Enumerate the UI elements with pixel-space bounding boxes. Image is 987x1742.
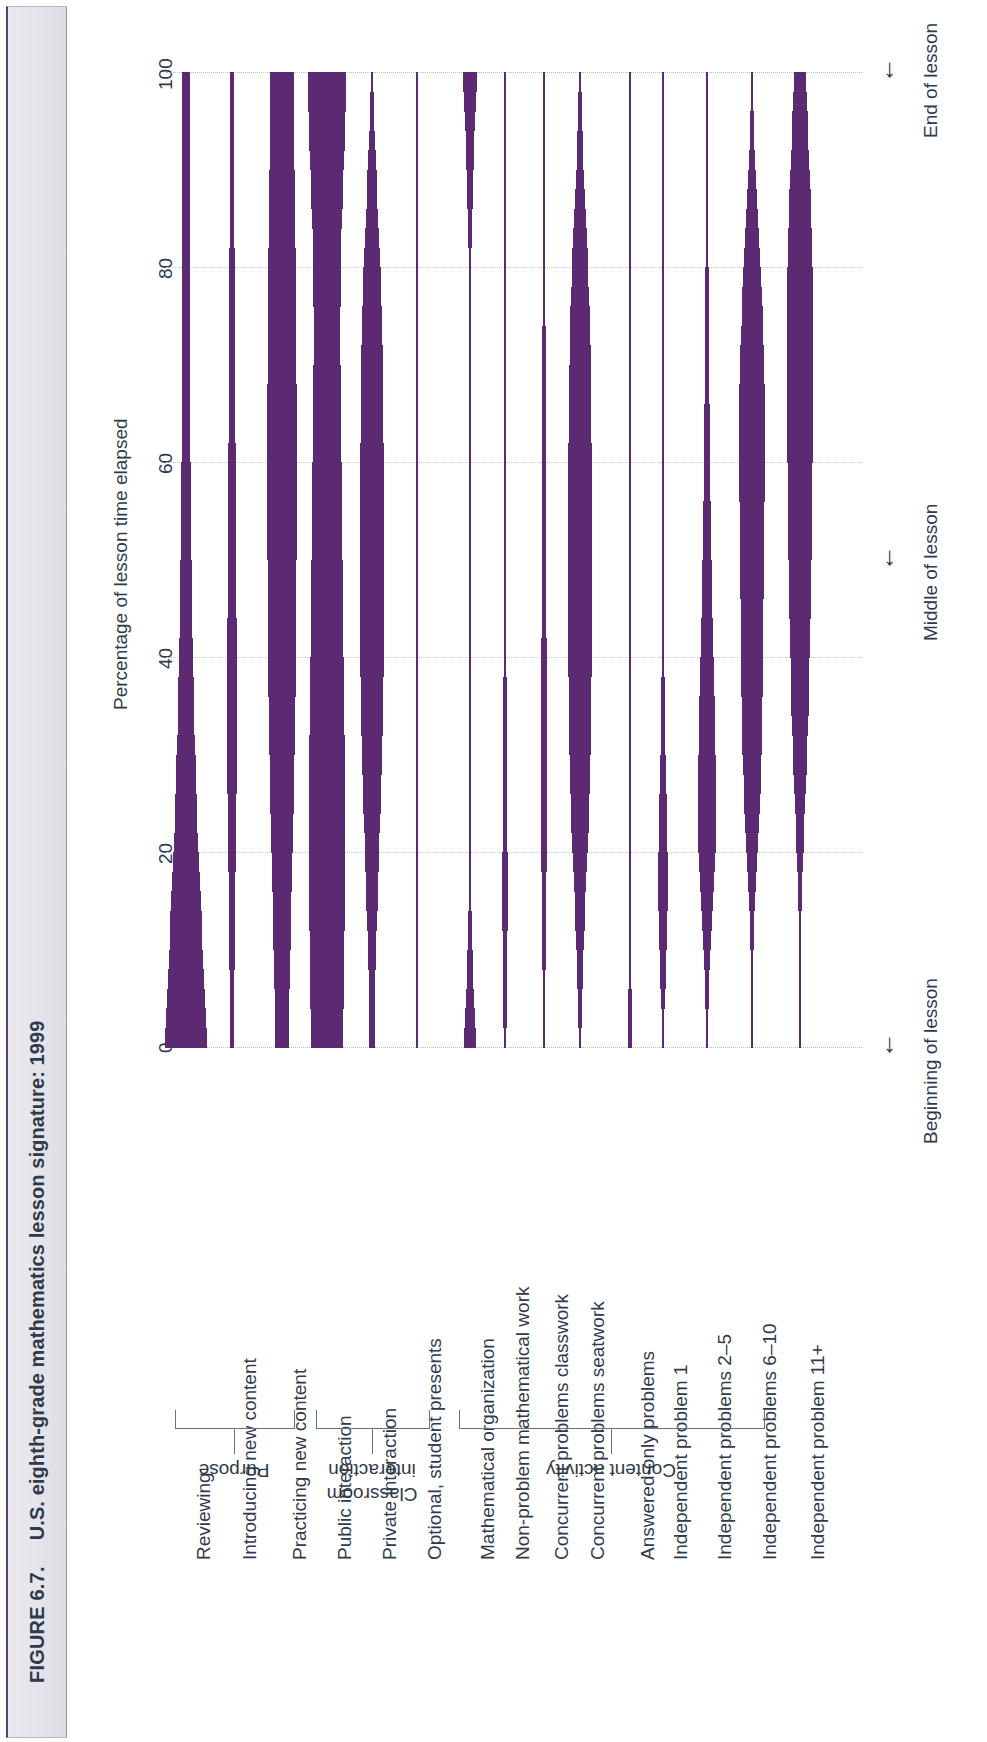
band-segment	[230, 989, 234, 1009]
band-segment	[629, 755, 631, 775]
band-segment	[504, 521, 506, 541]
band-segment	[740, 540, 764, 560]
band-segment	[703, 540, 712, 560]
band-segment	[629, 209, 630, 229]
band-segment	[792, 111, 807, 131]
band-segment	[309, 852, 345, 872]
band-segment	[310, 657, 343, 677]
band-segment	[788, 228, 812, 248]
band-segment	[704, 404, 709, 424]
band-segment	[502, 852, 507, 872]
band-segment	[309, 911, 344, 931]
band-segment	[182, 404, 190, 424]
band-segment	[313, 423, 341, 443]
band-segment	[577, 969, 582, 989]
band-segment	[569, 696, 591, 716]
band-segment	[464, 92, 476, 112]
band-segment	[741, 657, 763, 677]
band-segment	[629, 560, 630, 580]
band-segment	[792, 716, 808, 736]
band-segment	[504, 599, 507, 619]
band-segment	[629, 872, 631, 892]
band-segment	[182, 423, 191, 443]
band-segment	[577, 150, 584, 170]
band-segment	[313, 384, 341, 404]
band-segment	[661, 677, 664, 697]
band-segment	[363, 794, 380, 814]
band-segment	[569, 423, 592, 443]
band-segment	[366, 872, 378, 892]
band-segment	[569, 404, 591, 424]
band-segment	[369, 131, 375, 151]
band-segment	[740, 501, 765, 521]
band-segment	[469, 326, 470, 346]
band-segment	[360, 501, 384, 521]
band-segment	[739, 443, 765, 463]
band-segment	[751, 969, 753, 989]
band-segment	[662, 443, 663, 463]
band-segment	[416, 462, 417, 482]
band-segment	[751, 72, 753, 92]
band-segment	[313, 365, 340, 385]
band-segment	[416, 813, 417, 833]
band-segment	[570, 345, 591, 365]
band-segment	[311, 1008, 343, 1028]
band-segment	[467, 189, 472, 209]
band-segment	[360, 443, 383, 463]
band-segment	[270, 794, 293, 814]
band-segment	[230, 131, 234, 151]
band-segment	[745, 228, 758, 248]
band-segment	[571, 813, 588, 833]
band-segment	[416, 657, 417, 677]
band-segment	[569, 735, 590, 755]
band-segment	[577, 131, 583, 151]
band-segment	[268, 657, 296, 677]
band-segment	[662, 579, 664, 599]
category-label: Independent problem 1	[670, 1365, 692, 1560]
band-segment	[629, 521, 630, 541]
band-segment	[629, 501, 630, 521]
band-segment	[543, 209, 546, 229]
band-segment	[629, 482, 630, 502]
band-segment	[268, 365, 297, 385]
band-segment	[742, 306, 763, 326]
band-segment	[416, 521, 417, 541]
band-segment	[504, 482, 506, 502]
band-segment	[269, 209, 295, 229]
band-segment	[788, 248, 813, 268]
band-segment	[469, 462, 470, 482]
band-segment	[469, 599, 470, 619]
band-segment	[629, 306, 630, 326]
band-segment	[751, 1028, 752, 1048]
band-segment	[268, 638, 296, 658]
band-segment	[313, 287, 340, 307]
band-segment	[542, 345, 545, 365]
band-segment	[740, 579, 763, 599]
band-segment	[178, 716, 195, 736]
band-segment	[743, 267, 760, 287]
band-segment	[416, 638, 417, 658]
band-segment	[750, 911, 754, 931]
band-segment	[182, 131, 190, 151]
band-segment	[629, 150, 630, 170]
band-segment	[271, 833, 292, 853]
band-segment	[662, 540, 663, 560]
band-segment	[469, 404, 470, 424]
band-segment	[363, 267, 380, 287]
band-segment	[575, 911, 584, 931]
band-segment	[228, 482, 236, 502]
band-segment	[787, 423, 813, 443]
band-segment	[361, 716, 382, 736]
band-segment	[504, 365, 506, 385]
band-segment	[360, 560, 384, 580]
band-segment	[360, 618, 384, 638]
category-label: Independent problems 6–10	[759, 1323, 781, 1560]
band-segment	[469, 248, 472, 268]
band-segment	[543, 1028, 544, 1048]
band-segment	[469, 540, 470, 560]
band-segment	[739, 423, 765, 443]
band-segment	[503, 716, 507, 736]
band-segment	[416, 189, 417, 209]
band-segment	[751, 989, 752, 1009]
band-segment	[503, 774, 507, 794]
